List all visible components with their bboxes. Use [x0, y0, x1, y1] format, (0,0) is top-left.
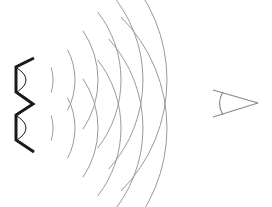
wavefront-arc — [121, 17, 167, 207]
wavefront-arc — [67, 50, 75, 111]
lower-reflector-curve-icon — [17, 116, 26, 140]
wavefront-arc — [109, 0, 143, 169]
wavefront-arc — [67, 98, 75, 159]
wavefront-arc — [109, 39, 143, 207]
wavefront-arc — [83, 31, 98, 129]
wavefronts — [51, 0, 167, 207]
wavefront-arc — [83, 79, 98, 177]
wavefront-arc — [51, 67, 53, 92]
diagram-canvas — [0, 0, 272, 207]
wavefront-arc — [98, 60, 122, 197]
wavefront-arc — [121, 0, 167, 191]
wave-sources — [16, 58, 34, 152]
wavefront-arc — [51, 115, 53, 140]
wavefront-arc — [98, 12, 122, 149]
double-reflector-icon — [16, 58, 34, 152]
upper-reflector-curve-icon — [17, 68, 26, 92]
eye-icon — [213, 90, 258, 117]
interference-diagram — [0, 0, 272, 207]
